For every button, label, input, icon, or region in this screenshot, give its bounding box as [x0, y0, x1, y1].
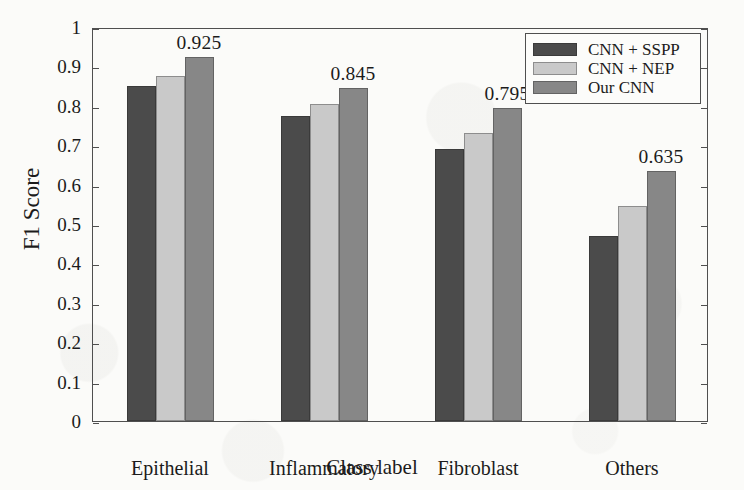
y-axis-tick-right [701, 29, 707, 30]
legend-item: Our CNN [533, 78, 693, 96]
y-axis-tick-label: 0.8 [11, 96, 81, 118]
x-axis-category-label: Others [555, 457, 709, 480]
y-axis-tick-label: 1 [11, 17, 81, 39]
y-axis-tick-label: 0.4 [11, 253, 81, 275]
y-axis-tick-right [701, 344, 707, 345]
y-axis-tick [93, 187, 99, 188]
x-axis-category-label: Fibroblast [401, 457, 555, 480]
bar-fibroblast-series-2 [493, 108, 522, 421]
y-axis-tick-label: 0.3 [11, 293, 81, 315]
y-axis-tick-right [701, 108, 707, 109]
bar-value-label: 0.925 [154, 32, 244, 54]
bar-epithelial-series-2 [185, 57, 214, 421]
legend-item-label: CNN + NEP [588, 60, 674, 77]
y-axis-tick-right [701, 265, 707, 266]
y-axis-tick-label: 0.7 [11, 135, 81, 157]
bar-fibroblast-series-0 [435, 149, 464, 421]
bar-inflammatory-series-0 [281, 116, 310, 421]
bar-inflammatory-series-1 [310, 104, 339, 421]
y-axis-tick-right [701, 423, 707, 424]
y-axis-tick [93, 226, 99, 227]
bar-others-series-0 [589, 236, 618, 421]
legend-item: CNN + NEP [533, 59, 693, 77]
y-axis-tick-label: 0.6 [11, 175, 81, 197]
bar-inflammatory-series-2 [339, 88, 368, 421]
bar-fibroblast-series-1 [464, 133, 493, 421]
y-axis-tick-right [701, 187, 707, 188]
bar-others-series-1 [618, 206, 647, 421]
bar-chart-figure: F1 Score Class label 00.10.20.30.40.50.6… [0, 0, 744, 490]
y-axis-tick [93, 384, 99, 385]
bar-others-series-2 [647, 171, 676, 421]
y-axis-tick-label: 0 [11, 411, 81, 433]
plot-frame: 00.10.20.30.40.50.60.70.80.910.9250.8450… [92, 28, 708, 422]
y-axis-tick [93, 29, 99, 30]
legend-swatch-icon [533, 43, 577, 56]
x-axis-category-label: Epithelial [93, 457, 247, 480]
y-axis-tick [93, 423, 99, 424]
legend-item-label: CNN + SSPP [588, 41, 680, 58]
legend-item-label: Our CNN [588, 79, 655, 96]
bar-value-label: 0.635 [616, 146, 706, 168]
y-axis-tick-label: 0.9 [11, 56, 81, 78]
bar-value-label: 0.845 [308, 63, 398, 85]
y-axis-tick [93, 305, 99, 306]
legend-swatch-icon [533, 62, 577, 75]
bar-epithelial-series-1 [156, 76, 185, 421]
legend-item: CNN + SSPP [533, 40, 693, 58]
x-axis-category-label: Inflammatory [247, 457, 401, 480]
y-axis-tick [93, 147, 99, 148]
y-axis-tick-right [701, 68, 707, 69]
chart-legend: CNN + SSPP CNN + NEP Our CNN [525, 33, 701, 104]
y-axis-tick-right [701, 384, 707, 385]
legend-swatch-icon [533, 81, 577, 94]
y-axis-tick [93, 68, 99, 69]
y-axis-tick-right [701, 226, 707, 227]
y-axis-tick-label: 0.1 [11, 372, 81, 394]
bar-epithelial-series-0 [127, 86, 156, 421]
y-axis-tick [93, 108, 99, 109]
y-axis-tick-label: 0.2 [11, 332, 81, 354]
y-axis-tick [93, 265, 99, 266]
y-axis-tick [93, 344, 99, 345]
y-axis-tick-right [701, 305, 707, 306]
y-axis-tick-label: 0.5 [11, 214, 81, 236]
